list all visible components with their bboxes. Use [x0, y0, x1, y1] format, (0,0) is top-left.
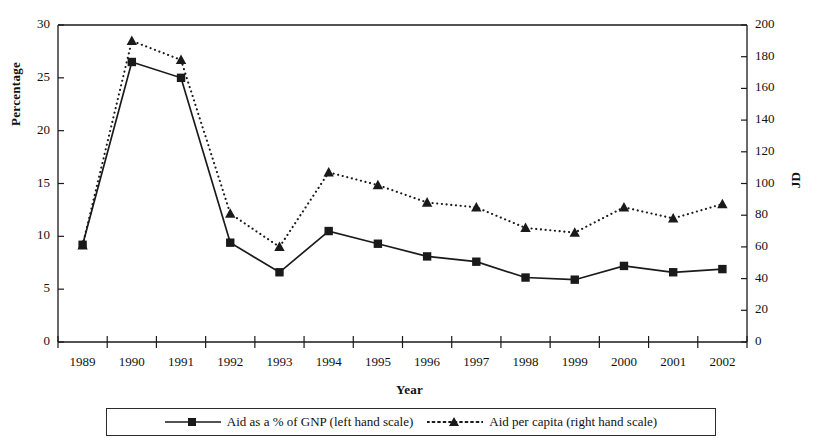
data-point-square-1993 — [275, 268, 283, 276]
data-point-triangle-1991 — [176, 54, 186, 64]
axes-lines — [58, 25, 747, 342]
data-point-square-1996 — [423, 252, 431, 260]
data-point-square-1998 — [521, 273, 529, 281]
legend-item-aid-per-capita: Aid per capita (right hand scale) — [427, 414, 657, 430]
legend-swatch-dotted-triangle-icon — [427, 415, 483, 429]
data-point-triangle-2000 — [619, 202, 629, 212]
data-point-square-2002 — [718, 265, 726, 273]
series-line-1 — [83, 41, 723, 247]
series-line-0 — [83, 62, 723, 280]
chart-legend: Aid as a % of GNP (left hand scale) Aid … — [106, 408, 716, 436]
legend-label-aid-percent-gnp: Aid as a % of GNP (left hand scale) — [227, 414, 414, 430]
plot-area — [0, 0, 819, 438]
data-point-square-1997 — [472, 257, 480, 265]
legend-label-aid-per-capita: Aid per capita (right hand scale) — [489, 414, 657, 430]
legend-swatch-solid-square-icon — [165, 415, 221, 429]
data-point-square-1995 — [374, 240, 382, 248]
data-point-square-1990 — [128, 58, 136, 66]
data-point-square-2000 — [620, 262, 628, 270]
data-point-square-1992 — [226, 238, 234, 246]
data-point-triangle-1997 — [471, 202, 481, 212]
data-point-square-2001 — [669, 268, 677, 276]
data-point-square-1994 — [324, 227, 332, 235]
data-point-triangle-1999 — [570, 227, 580, 237]
data-point-triangle-1990 — [127, 35, 137, 45]
data-point-square-1999 — [571, 275, 579, 283]
data-series — [77, 35, 727, 283]
axis-ticks — [58, 25, 747, 348]
legend-item-aid-percent-gnp: Aid as a % of GNP (left hand scale) — [165, 414, 414, 430]
chart-container: Percentage JD Year 051015202530020406080… — [0, 0, 819, 438]
data-point-triangle-2002 — [717, 199, 727, 209]
data-point-triangle-1994 — [323, 167, 333, 177]
data-point-square-1991 — [177, 74, 185, 82]
data-point-triangle-1992 — [225, 208, 235, 218]
